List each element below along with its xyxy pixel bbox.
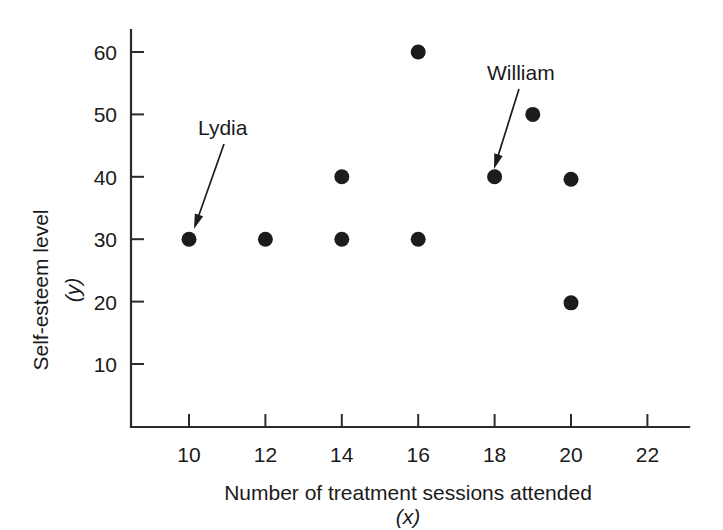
annotation-lydia: Lydia: [194, 116, 248, 229]
data-points-group: [182, 45, 579, 311]
y-axis-tick-labels: 102030405060: [94, 41, 117, 376]
annotation-label: Lydia: [198, 116, 248, 139]
y-axis-title-group: Self-esteem level (y): [29, 209, 84, 370]
annotation-label: William: [487, 61, 555, 84]
x-axis-tick-labels: 10121416182022: [177, 443, 659, 466]
annotation-arrow-shaft: [498, 89, 519, 157]
y-tick-label-60: 60: [94, 41, 117, 64]
y-tick-label-30: 30: [94, 228, 117, 251]
x-tick-label-12: 12: [254, 443, 277, 466]
data-point: [564, 172, 579, 187]
data-point: [525, 107, 540, 122]
x-axis-title: Number of treatment sessions attended: [224, 481, 592, 504]
x-tick-label-22: 22: [636, 443, 659, 466]
x-axis-title-group: Number of treatment sessions attended (x…: [224, 481, 592, 528]
data-point: [334, 169, 349, 184]
data-point: [182, 232, 197, 247]
y-tick-label-40: 40: [94, 166, 117, 189]
y-tick-label-10: 10: [94, 353, 117, 376]
x-tick-label-16: 16: [407, 443, 430, 466]
y-tick-label-50: 50: [94, 103, 117, 126]
x-tick-label-18: 18: [483, 443, 506, 466]
data-point: [411, 45, 426, 60]
data-point: [564, 295, 579, 310]
axes-group: [131, 30, 689, 427]
x-tick-label-20: 20: [559, 443, 582, 466]
x-axis-ticks: [189, 414, 647, 427]
x-tick-label-14: 14: [330, 443, 354, 466]
data-point: [258, 232, 273, 247]
annotation-arrow-head: [494, 153, 503, 169]
y-tick-label-20: 20: [94, 291, 117, 314]
annotation-arrow-head: [194, 213, 203, 229]
annotations-group: LydiaWilliam: [194, 61, 555, 229]
data-point: [411, 232, 426, 247]
y-axis-ticks: [131, 52, 144, 364]
annotation-william: William: [487, 61, 555, 169]
annotation-arrow-shaft: [198, 144, 224, 217]
y-axis-title: Self-esteem level: [29, 209, 52, 370]
y-axis-symbol: (y): [61, 278, 84, 303]
data-point: [487, 169, 502, 184]
plot-canvas: 102030405060 10121416182022 LydiaWilliam…: [0, 0, 723, 530]
x-tick-label-10: 10: [177, 443, 200, 466]
scatter-plot-figure: 102030405060 10121416182022 LydiaWilliam…: [0, 0, 723, 530]
x-axis-symbol: (x): [396, 505, 421, 528]
data-point: [334, 232, 349, 247]
